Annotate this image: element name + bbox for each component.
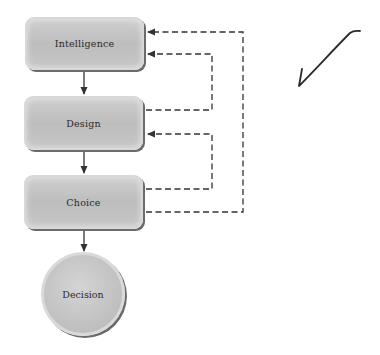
dashed-feedback-arrows — [146, 32, 243, 212]
checkmark-icon — [299, 31, 360, 86]
diagram-connectors — [0, 0, 380, 355]
